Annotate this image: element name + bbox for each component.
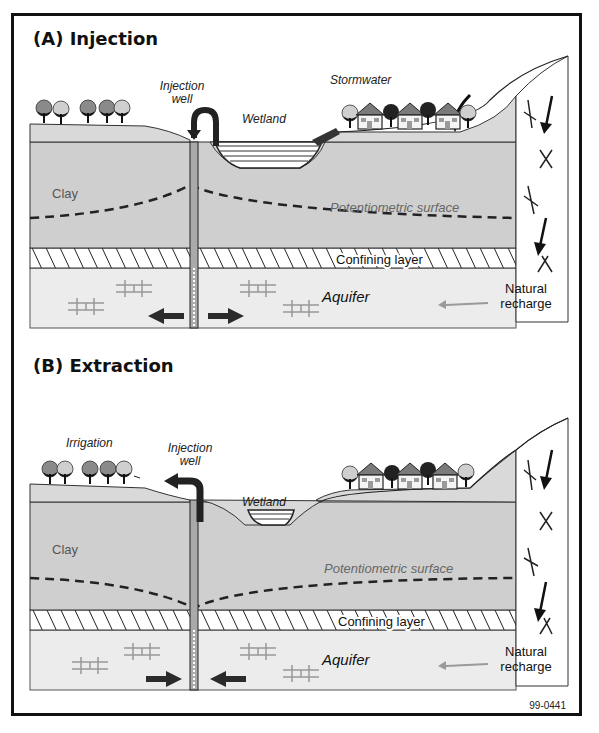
confining-label: Confining layer [336, 252, 423, 267]
panel-b-diagram: Irrigation Injection well Wetland Clay P… [30, 418, 568, 690]
potentiometric-label: Potentiometric surface [330, 200, 459, 215]
houses-b [342, 462, 474, 489]
aquifer-layer [30, 268, 516, 328]
stormwater-label: Stormwater [330, 73, 392, 87]
panel-a-diagram: Injection well Wetland Stormwater Clay P… [30, 56, 568, 328]
recharge-label-b-line2: recharge [500, 659, 551, 674]
wetland [215, 142, 322, 168]
figure-id-label: 99-0441 [529, 700, 566, 711]
well-label-b-line2: well [180, 454, 201, 468]
clay-label: Clay [52, 186, 79, 201]
potentiometric-label-b: Potentiometric surface [324, 561, 453, 576]
injection-arrow-icon [194, 110, 216, 146]
wetland-label-b: Wetland [242, 495, 286, 509]
well-label-line1: Injection [160, 79, 205, 93]
well-label-line2: well [172, 92, 193, 106]
aquifer-label-b: Aquifer [321, 651, 371, 668]
confining-label-b: Confining layer [338, 614, 425, 629]
wetland-label: Wetland [242, 112, 286, 126]
well-label-b-line1: Injection [168, 441, 213, 455]
extraction-well [190, 500, 198, 690]
aquifer-label: Aquifer [321, 288, 371, 305]
recharge-label-line2: recharge [500, 296, 551, 311]
diagram-canvas: Injection well Wetland Stormwater Clay P… [0, 0, 599, 733]
houses [342, 102, 476, 129]
recharge-label-b-line1: Natural [505, 644, 547, 659]
confining-layer [30, 248, 516, 268]
recharge-label-line1: Natural [505, 281, 547, 296]
clay-label-b: Clay [52, 542, 79, 557]
irrigation-label: Irrigation [66, 436, 113, 450]
